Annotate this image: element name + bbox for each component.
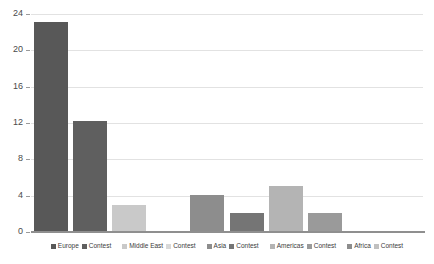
legend-swatch-icon <box>166 244 171 249</box>
y-axis-tick-label: 4 <box>18 191 23 200</box>
legend-label: Contest <box>89 243 111 250</box>
legend-label: Contest <box>314 243 336 250</box>
legend-swatch-icon <box>307 244 312 249</box>
legend-label: Contest <box>236 243 258 250</box>
legend-swatch-icon <box>270 244 275 249</box>
legend-label: Middle East <box>129 243 163 250</box>
legend-swatch-icon <box>229 244 234 249</box>
legend-label: Americas <box>277 243 304 250</box>
y-axis-tick-label: 16 <box>13 82 23 91</box>
legend-item[interactable]: Contest <box>166 243 195 250</box>
y-axis-tick-label: 12 <box>13 118 23 127</box>
legend-swatch-icon <box>374 244 379 249</box>
legend-swatch-icon <box>122 244 127 249</box>
y-axis-tick-mark <box>26 87 30 88</box>
legend-swatch-icon <box>347 244 352 249</box>
legend-label: Contest <box>381 243 403 250</box>
bar-chart: EuropeContestMiddle EastContestAsiaConte… <box>0 0 434 264</box>
legend-label: Contest <box>173 243 195 250</box>
legend-item[interactable]: Europe <box>51 243 79 250</box>
y-axis-tick-label: 20 <box>13 45 23 54</box>
y-axis-tick-mark <box>26 50 30 51</box>
legend-label: Africa <box>354 243 371 250</box>
legend-item[interactable]: Contest <box>229 243 258 250</box>
y-axis-tick-label: 0 <box>18 227 23 236</box>
y-axis-tick-label: 24 <box>13 9 23 18</box>
bar <box>308 213 342 232</box>
legend-item[interactable]: Contest <box>374 243 403 250</box>
legend-swatch-icon <box>207 244 212 249</box>
gridline <box>31 87 423 88</box>
legend-item[interactable]: Contest <box>82 243 111 250</box>
bar <box>190 195 224 232</box>
y-axis-tick-mark <box>26 159 30 160</box>
plot-area <box>31 14 423 232</box>
gridline <box>31 14 423 15</box>
chart-legend: EuropeContestMiddle EastContestAsiaConte… <box>31 239 423 253</box>
legend-item[interactable]: Asia <box>207 243 227 250</box>
legend-item[interactable]: Middle East <box>122 243 163 250</box>
bar <box>73 121 107 232</box>
bar <box>34 22 68 232</box>
x-axis-line <box>31 231 425 233</box>
y-axis-tick-mark <box>26 123 30 124</box>
legend-label: Asia <box>214 243 227 250</box>
bar <box>269 186 303 232</box>
y-axis-tick-mark <box>26 232 30 233</box>
y-axis-tick-mark <box>26 196 30 197</box>
gridline <box>31 50 423 51</box>
legend-item[interactable]: Africa <box>347 243 371 250</box>
legend-item[interactable]: Contest <box>307 243 336 250</box>
legend-swatch-icon <box>51 244 56 249</box>
legend-item[interactable]: Americas <box>270 243 304 250</box>
legend-label: Europe <box>58 243 79 250</box>
bar <box>112 205 146 232</box>
y-axis-tick-mark <box>26 14 30 15</box>
legend-swatch-icon <box>82 244 87 249</box>
y-axis-tick-label: 8 <box>18 154 23 163</box>
bar <box>230 213 264 232</box>
